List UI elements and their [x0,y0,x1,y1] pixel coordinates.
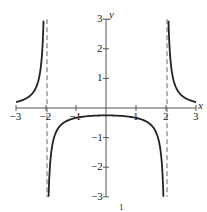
function-plot [0,0,207,212]
x-tick-label: −2 [40,111,52,122]
y-tick-label: 2 [97,43,103,54]
curve-branch [168,21,196,102]
y-tick-label: −2 [91,161,103,172]
y-tick-label: 3 [97,13,103,24]
y-tick-label: −3 [91,191,103,202]
x-tick-label: −1 [70,111,82,122]
y-tick-label: −1 [91,132,103,143]
x-tick-label: 3 [193,111,199,122]
x-tick-label: −3 [10,111,22,122]
x-tick-label: 1 [133,111,139,122]
caption-fragment: 1 [119,203,124,212]
x-tick-label: 2 [163,111,169,122]
curve-branch [16,21,44,102]
x-axis-label: x [198,100,203,111]
y-axis-label: y [109,9,114,20]
y-tick-label: 1 [97,72,103,83]
